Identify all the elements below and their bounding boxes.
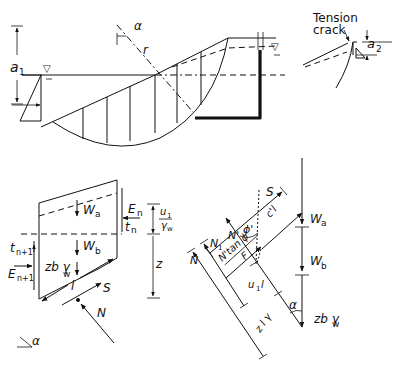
svg-text:1: 1 xyxy=(218,244,222,252)
svg-text:b: b xyxy=(321,261,327,271)
svg-text:N': N' xyxy=(228,229,239,242)
piezometer-water-icon: ▽ xyxy=(271,41,279,52)
svg-text:α: α xyxy=(289,298,297,312)
svg-text:a: a xyxy=(321,218,327,228)
svg-text:b: b xyxy=(95,246,101,256)
alpha-label: α xyxy=(134,19,142,33)
svg-text:N: N xyxy=(190,254,198,267)
svg-text:crack: crack xyxy=(313,23,345,37)
svg-text:n: n xyxy=(137,208,143,218)
svg-text:w: w xyxy=(332,319,339,329)
slope-section: a 1 ▽ r α xyxy=(10,19,285,146)
svg-text:S: S xyxy=(266,185,274,199)
svg-text:α: α xyxy=(32,334,40,348)
a2-label: a xyxy=(367,36,375,51)
svg-text:l: l xyxy=(261,279,264,290)
tension-crack-detail: Tension crack a 2 xyxy=(303,11,392,88)
svg-text:N: N xyxy=(97,306,106,320)
svg-text:a: a xyxy=(95,209,101,219)
water-table-icon: ▽ xyxy=(43,63,51,74)
svg-text:1: 1 xyxy=(256,285,260,293)
svg-text:z: z xyxy=(155,257,163,271)
water-pressure-triangle xyxy=(12,75,42,121)
svg-text:E: E xyxy=(8,267,16,281)
svg-text:w: w xyxy=(63,269,70,279)
svg-text:u: u xyxy=(160,206,166,217)
svg-text:S: S xyxy=(103,281,111,295)
phi-label: ϕ' xyxy=(243,223,253,236)
svg-text:z l γ: z l γ xyxy=(252,310,274,335)
force-polygon: W a W b zb γ w S c'l N'tan ϕ' F N' ϕ' xyxy=(187,158,340,359)
a1-dimension: a 1 xyxy=(10,26,25,104)
slice-free-body: W a W b zb γ w E n t n t n+1 E n+1 l S N xyxy=(8,180,173,348)
svg-text:n: n xyxy=(131,225,137,235)
slope-stability-diagram: a 1 ▽ r α xyxy=(0,0,403,369)
radius-label: r xyxy=(143,43,149,57)
svg-text:u: u xyxy=(248,279,254,290)
svg-text:n+1: n+1 xyxy=(16,248,33,257)
svg-text:w: w xyxy=(167,225,173,233)
svg-text:N: N xyxy=(210,237,218,250)
svg-text:n+1: n+1 xyxy=(17,274,34,283)
svg-text:2: 2 xyxy=(376,44,382,54)
a1-label: a xyxy=(10,59,19,75)
svg-text:E: E xyxy=(128,202,136,216)
